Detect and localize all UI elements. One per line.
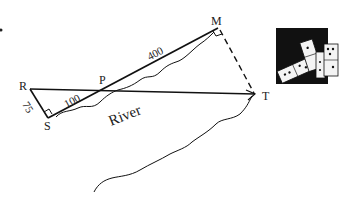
dominoes-icon [276, 28, 338, 84]
bullet-dot [0, 29, 3, 32]
label-T: T [262, 89, 270, 103]
segment-MT-dashed [220, 30, 254, 93]
label-P: P [99, 73, 106, 87]
segment-RT [30, 89, 255, 94]
measure-RS: 75 [20, 99, 36, 115]
river-label: River [106, 102, 143, 129]
label-M: M [211, 14, 222, 28]
river-diagram: R S P M T 75 100 400 River [0, 0, 353, 201]
label-S: S [44, 119, 51, 133]
measure-PM: 400 [145, 44, 166, 63]
label-R: R [19, 79, 27, 93]
